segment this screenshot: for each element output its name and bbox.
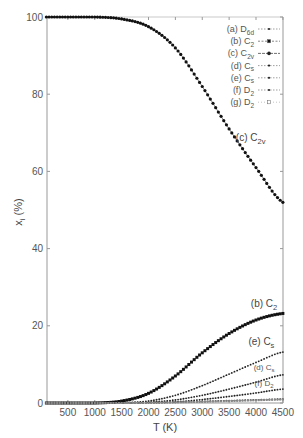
y-tick-label: 60 — [32, 166, 44, 177]
legend: (a) D6d(b) C2(c) C2v(d) Cs(e) Cs(f) D2(g… — [227, 24, 280, 109]
legend-label: (b) C2 — [230, 36, 254, 48]
x-tick-label: 2000 — [137, 407, 160, 418]
legend-marker-icon — [267, 40, 270, 43]
y-tick-label: 40 — [32, 243, 44, 254]
legend-label: (a) D6d — [227, 24, 255, 36]
x-tick-label: 1000 — [84, 407, 107, 418]
series--b-c2 — [45, 312, 285, 405]
curve-annotation: (f) D2 — [255, 379, 275, 389]
x-tick-label: 4500 — [272, 407, 295, 418]
legend-label: (d) Cs — [231, 61, 255, 73]
y-tick-label: 20 — [32, 320, 44, 331]
x-tick-label: 1500 — [111, 407, 134, 418]
legend-marker-icon — [268, 28, 270, 30]
x-tick-label: 500 — [60, 407, 77, 418]
legend-label: (e) Cs — [231, 73, 255, 85]
curve-annotation: (b) C2 — [251, 298, 277, 312]
plot-frame: 5001000150020002500300035004000450002040… — [26, 12, 294, 419]
annotations: (c) C2v(b) C2(e) Cs(d) Cs(f) D2 — [236, 132, 277, 389]
phase-fraction-chart: 5001000150020002500300035004000450002040… — [0, 0, 303, 438]
y-tick-label: 80 — [32, 89, 44, 100]
legend-marker-icon — [267, 101, 270, 104]
legend-label: (c) C2v — [228, 48, 255, 60]
legend-marker-icon — [268, 65, 270, 67]
curve-annotation: (e) Cs — [248, 336, 274, 350]
x-tick-label: 4000 — [245, 407, 268, 418]
legend-label: (f) D2 — [233, 85, 255, 97]
legend-marker-icon — [268, 89, 270, 91]
y-tick-label: 100 — [26, 12, 43, 23]
legend-label: (g) D2 — [230, 97, 254, 109]
legend-marker-icon — [268, 77, 270, 79]
x-tick-label: 3500 — [218, 407, 241, 418]
y-tick-label: 0 — [37, 398, 43, 409]
series--e-cs — [45, 351, 283, 404]
y-axis-label: xi (%) — [12, 198, 27, 225]
legend-marker-icon — [267, 52, 271, 56]
x-tick-label: 2500 — [164, 407, 187, 418]
x-tick-label: 3000 — [191, 407, 214, 418]
curve-annotation: (d) Cs — [254, 363, 275, 373]
x-axis-label: T (K) — [153, 421, 177, 433]
